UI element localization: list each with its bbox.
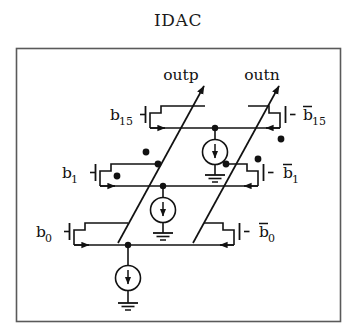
figure-root: IDAC bbox=[0, 0, 356, 335]
svg-text:0: 0 bbox=[268, 232, 275, 245]
svg-text:15: 15 bbox=[312, 115, 326, 128]
output-label-outn: outn bbox=[244, 66, 280, 84]
schematic-canvas: b 15 b 15 bbox=[0, 0, 356, 335]
junction-dot bbox=[143, 149, 150, 156]
junction-dot bbox=[114, 173, 121, 180]
svg-text:15: 15 bbox=[119, 115, 133, 128]
output-label-outp: outp bbox=[163, 66, 199, 84]
svg-text:0: 0 bbox=[45, 232, 52, 245]
junction-dot bbox=[255, 156, 262, 163]
svg-text:1: 1 bbox=[71, 173, 78, 186]
junction-dot bbox=[223, 161, 230, 168]
svg-text:1: 1 bbox=[292, 173, 299, 186]
circuit-schematic-svg: b 15 b 15 bbox=[0, 0, 356, 335]
junction-dot bbox=[278, 136, 285, 143]
